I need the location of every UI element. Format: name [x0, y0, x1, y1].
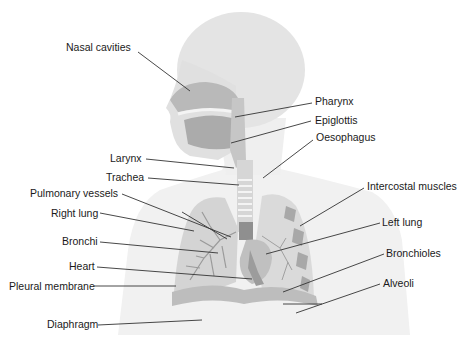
label-nasal-cavities: Nasal cavities: [66, 41, 131, 53]
label-intercostal-muscles: Intercostal muscles: [367, 180, 457, 192]
label-pulmonary-vessels: Pulmonary vessels: [30, 187, 118, 199]
label-oesophagus: Oesophagus: [316, 131, 376, 143]
respiratory-diagram: Nasal cavities Larynx Trachea Pulmonary …: [0, 0, 471, 350]
label-epiglottis: Epiglottis: [315, 114, 358, 126]
oral-cavity-shape: [184, 115, 232, 149]
label-left-lung: Left lung: [382, 216, 422, 228]
label-alveoli: Alveoli: [383, 277, 414, 289]
label-pharynx: Pharynx: [315, 95, 354, 107]
label-bronchi: Bronchi: [62, 235, 98, 247]
label-trachea: Trachea: [106, 171, 144, 183]
label-bronchioles: Bronchioles: [386, 247, 441, 259]
label-heart: Heart: [69, 260, 95, 272]
label-right-lung: Right lung: [51, 207, 98, 219]
label-diaphragm: Diaphragm: [47, 318, 98, 330]
label-pleural-membrane: Pleural membrane: [9, 280, 95, 292]
leader-larynx: [146, 159, 234, 168]
trachea-shape: [237, 160, 253, 232]
trachea-rings: [238, 180, 252, 216]
pulmonary-vessels-shape: [239, 222, 253, 240]
label-larynx: Larynx: [110, 152, 142, 164]
